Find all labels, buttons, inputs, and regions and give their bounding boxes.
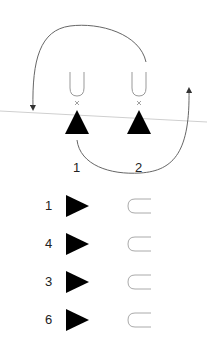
triangle-up-icon — [65, 110, 89, 134]
cup-sideways-icon — [128, 313, 151, 327]
list-item-number: 4 — [45, 237, 52, 250]
triangle-up-icon — [127, 110, 151, 134]
position-label-1: 1 — [73, 161, 80, 174]
triangle-right-icon — [66, 271, 89, 293]
baseline-line — [0, 111, 207, 122]
diagram-canvas — [0, 0, 207, 354]
x-mark-icon — [137, 101, 141, 105]
cup-sideways-icon — [128, 275, 151, 289]
list-item-number: 6 — [45, 313, 52, 326]
position-label-2: 2 — [135, 161, 142, 174]
cup-icon — [132, 72, 146, 96]
list-item-number: 3 — [45, 275, 52, 288]
triangle-right-icon — [66, 195, 89, 217]
triangle-right-icon — [66, 309, 89, 331]
cup-icon — [70, 72, 84, 96]
cup-sideways-icon — [128, 199, 151, 213]
list-item-number: 1 — [45, 199, 52, 212]
triangle-right-icon — [66, 233, 89, 255]
cup-sideways-icon — [128, 237, 151, 251]
x-mark-icon — [75, 101, 79, 105]
swap-arrow-top — [33, 25, 146, 108]
